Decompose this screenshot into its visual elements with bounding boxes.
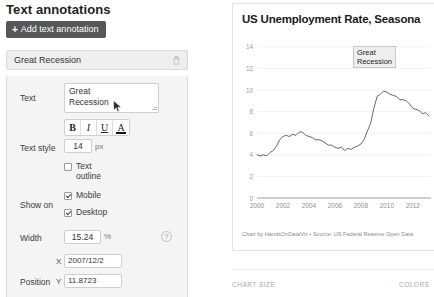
position-y-input[interactable]: 11.8723	[64, 274, 122, 288]
svg-text:2010: 2010	[380, 202, 395, 209]
annotation-text-line2: Recession	[69, 97, 154, 108]
list-item[interactable]: Great Recession	[6, 50, 188, 70]
mobile-label: Mobile	[76, 191, 101, 201]
italic-button[interactable]: I	[81, 120, 97, 135]
width-input[interactable]: 15.24	[64, 230, 101, 244]
checkbox-box-desktop	[64, 209, 72, 217]
svg-text:14: 14	[246, 43, 254, 50]
trash-icon[interactable]	[173, 56, 180, 65]
position-label: Position	[20, 277, 50, 287]
bold-button[interactable]: B	[65, 120, 81, 135]
add-text-annotation-button[interactable]: + Add text annotation	[6, 21, 106, 38]
show-on-desktop-checkbox[interactable]: Desktop	[64, 208, 107, 218]
mouse-cursor-icon	[113, 100, 122, 113]
chart-source-footer: Chart by HandsOnDataViz • Source: US Fed…	[242, 231, 413, 237]
svg-text:2000: 2000	[250, 202, 265, 209]
underline-button[interactable]: U	[97, 120, 113, 135]
text-outline-checkbox[interactable]: Text outline	[64, 162, 104, 181]
svg-text:2: 2	[249, 173, 253, 180]
add-text-annotation-label: Add text annotation	[21, 21, 99, 38]
section-divider	[232, 269, 434, 270]
checkbox-box-mobile	[64, 192, 72, 200]
desktop-label: Desktop	[76, 208, 107, 218]
width-unit: %	[104, 232, 111, 241]
svg-text:2012: 2012	[406, 202, 421, 209]
width-label: Width	[20, 233, 42, 243]
chart-annotation-line1: Great	[357, 48, 392, 57]
chart-annotation-line2: Recession	[357, 57, 392, 66]
annotation-text-input[interactable]: Great Recession	[64, 83, 159, 113]
svg-text:4: 4	[249, 151, 253, 158]
chart-title: US Unemployment Rate, Seasona	[242, 13, 420, 25]
svg-text:2006: 2006	[328, 202, 343, 209]
text-color-swatch	[116, 132, 126, 134]
position-x-prefix: X	[56, 257, 61, 266]
checkbox-box-text-outline	[64, 163, 72, 171]
position-y-prefix: Y	[56, 277, 61, 286]
page-title: Text annotations	[6, 2, 111, 17]
text-color-button[interactable]: A	[113, 120, 129, 135]
annotation-text-line1: Great	[69, 86, 154, 97]
svg-text:2002: 2002	[276, 202, 291, 209]
text-style-label: Text style	[20, 143, 55, 153]
chart-preview: US Unemployment Rate, Seasona 0246810121…	[232, 3, 434, 251]
svg-text:2004: 2004	[302, 202, 317, 209]
text-format-toolbar: B I U A	[64, 119, 130, 136]
annotation-name-label: Great Recession	[14, 55, 81, 65]
show-on-label: Show on	[20, 200, 53, 210]
question-mark-icon[interactable]: ?	[161, 231, 172, 242]
text-annotations-panel: Text annotations + Add text annotation G…	[0, 0, 218, 297]
chart-editor-screen: Text annotations + Add text annotation G…	[0, 0, 434, 297]
svg-text:6: 6	[249, 130, 253, 137]
chart-annotation-great-recession[interactable]: Great Recession	[353, 46, 396, 68]
plus-icon: +	[12, 25, 18, 35]
font-size-unit: px	[95, 142, 103, 151]
chart-size-section-label: CHART SIZE	[232, 281, 275, 288]
font-size-input[interactable]: 14	[64, 139, 92, 153]
svg-text:8: 8	[249, 108, 253, 115]
text-field-label: Text	[20, 93, 36, 103]
unemployment-line-chart: 024681012142000200220042006200820102012	[233, 34, 434, 220]
colors-section-label: COLORS	[399, 281, 429, 288]
show-on-mobile-checkbox[interactable]: Mobile	[64, 191, 101, 201]
svg-text:12: 12	[246, 65, 254, 72]
position-x-input[interactable]: 2007/12/2	[64, 254, 122, 268]
svg-text:10: 10	[246, 87, 254, 94]
svg-text:2008: 2008	[354, 202, 369, 209]
text-outline-label: Text outline	[76, 162, 104, 181]
